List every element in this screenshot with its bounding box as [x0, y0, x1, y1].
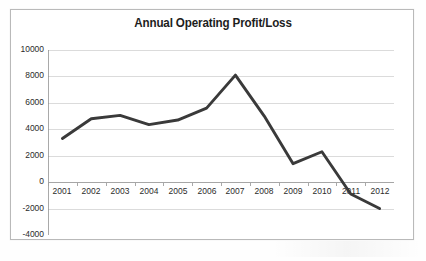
- axis-lines: [48, 50, 394, 235]
- y-axis-label-8000: 8000: [25, 70, 44, 80]
- y-axis-label-6000: 6000: [25, 97, 44, 107]
- plot-area: [48, 50, 394, 235]
- y-axis-label-10000: 10000: [20, 44, 44, 54]
- y-axis-label--4000: -4000: [22, 229, 44, 239]
- y-axis-label-2000: 2000: [25, 150, 44, 160]
- scanned-page: Annual Operating Profit/Loss 10000800060…: [0, 0, 426, 261]
- line-chart-svg: [48, 50, 394, 235]
- y-axis-label-0: 0: [39, 176, 44, 186]
- y-axis-tick-labels: 1000080006000400020000-2000-4000: [0, 0, 44, 261]
- series-line-annual-operating-profit-loss: [62, 75, 379, 208]
- axis-tick-marks: [48, 51, 366, 236]
- y-axis-label-4000: 4000: [25, 123, 44, 133]
- gridlines: [48, 51, 394, 236]
- y-axis-label--2000: -2000: [22, 203, 44, 213]
